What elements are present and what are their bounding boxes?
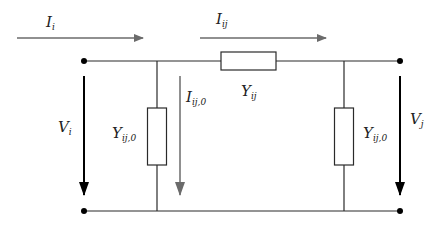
voltage-right-label: Vj (410, 110, 424, 129)
right-shunt-admittance-element (335, 108, 354, 165)
terminal-dot-bottom-right (397, 208, 403, 214)
series-admittance-element (221, 52, 276, 70)
series-admittance-label: Yij (241, 82, 257, 101)
left-shunt-admittance-element (148, 108, 167, 165)
voltage-left-label: Vi (58, 118, 72, 137)
circuit-diagram: Ii Iij Iij,0 Yij Yij,0 Yij,0 Vi Vj (0, 0, 442, 226)
terminal-dot-bottom-left (81, 208, 87, 214)
current-in-label: Ii (45, 13, 55, 32)
current-series-label: Iij (215, 10, 228, 29)
terminal-dot-top-left (81, 58, 87, 64)
terminal-dot-top-right (397, 58, 403, 64)
current-shunt-label: Iij,0 (185, 88, 206, 107)
shunt-admittance-left-label: Yij,0 (112, 124, 136, 143)
shunt-admittance-right-label: Yij,0 (363, 124, 387, 143)
